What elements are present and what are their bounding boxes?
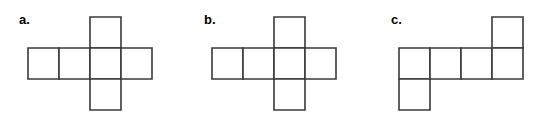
net-c-middle-square-3 [461, 48, 492, 79]
net-c-middle-square-4 [492, 48, 523, 79]
net-c-top-square [492, 17, 523, 48]
net-c-middle-square-1 [399, 48, 430, 79]
net-c-bottom-square [399, 79, 430, 110]
net-c-middle-square-2 [430, 48, 461, 79]
net-shape-c [397, 15, 525, 112]
cube-nets-figure: a.b.c. [0, 0, 541, 122]
cube-net-c: c. [0, 0, 541, 122]
